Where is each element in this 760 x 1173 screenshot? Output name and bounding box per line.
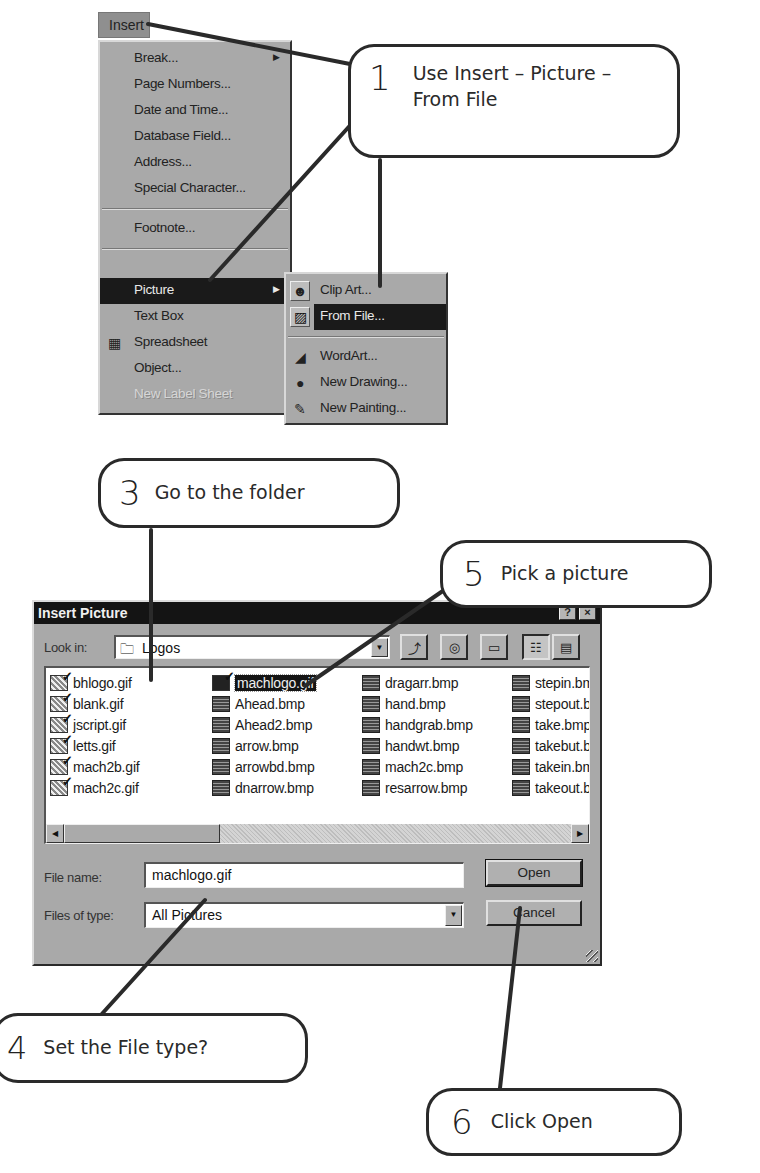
gif-file-icon (50, 759, 68, 775)
file-item[interactable]: Ahead2.bmp (212, 714, 316, 735)
list-view-button[interactable]: ☷ (522, 634, 550, 660)
gif-file-icon (50, 717, 68, 733)
file-item[interactable]: Ahead.bmp (212, 693, 316, 714)
bmp-file-icon (212, 738, 230, 754)
menu-item-date-time[interactable]: Date and Time... (100, 98, 290, 124)
chevron-down-icon[interactable]: ▼ (371, 638, 388, 657)
file-item[interactable]: takeout.bmp (512, 777, 590, 798)
dialog-title: Insert Picture (38, 605, 127, 621)
menu-item-object[interactable]: Object... (100, 356, 290, 382)
file-item[interactable]: dnarrow.bmp (212, 777, 316, 798)
file-item[interactable]: takein.bmp (512, 756, 590, 777)
gif-file-icon (50, 675, 68, 691)
menu-item-from-file[interactable]: From File... (314, 304, 446, 330)
menu-item-new-painting[interactable]: ✎New Painting... (286, 396, 446, 422)
bmp-file-icon (212, 759, 230, 775)
menu-item-picture[interactable]: Picture▶ (100, 278, 290, 304)
look-in-label: Look in: (44, 640, 87, 655)
file-item[interactable]: resarrow.bmp (362, 777, 473, 798)
file-name: arrowbd.bmp (235, 759, 315, 775)
file-item[interactable]: mach2c.bmp (362, 756, 473, 777)
file-item[interactable]: take.bmp (512, 714, 590, 735)
file-item[interactable]: hand.bmp (362, 693, 473, 714)
submenu-arrow-icon: ▶ (273, 52, 280, 62)
up-one-level-button[interactable]: ⤴ (400, 634, 428, 660)
file-item-selected[interactable]: machlogo.gif (212, 672, 316, 693)
open-button[interactable]: Open (486, 860, 582, 886)
file-column: bhlogo.gif blank.gif jscript.gif letts.g… (50, 672, 139, 798)
file-name: mach2c.gif (73, 780, 139, 796)
menu-item-break[interactable]: Break...▶ (100, 46, 290, 72)
menu-insert[interactable]: Insert (98, 12, 150, 38)
menu-item-text-box[interactable]: Text Box (100, 304, 290, 330)
file-name: bhlogo.gif (73, 675, 132, 691)
menu-item-spreadsheet[interactable]: ▦Spreadsheet (100, 330, 290, 356)
file-item[interactable]: handgrab.bmp (362, 714, 473, 735)
file-list[interactable]: bhlogo.gif blank.gif jscript.gif letts.g… (44, 666, 590, 844)
file-name: take.bmp (535, 717, 590, 733)
callout-text: Use Insert – Picture – From File (413, 61, 643, 112)
bmp-file-icon (512, 675, 530, 691)
up-one-level-icon: ⤴ (408, 638, 421, 657)
submenu-arrow-icon: ▶ (273, 284, 280, 294)
menu-item-wordart[interactable]: ◢WordArt... (286, 344, 446, 370)
menu-item-footnote[interactable]: Footnote... (100, 216, 290, 242)
file-column: machlogo.gif Ahead.bmp Ahead2.bmp arrow.… (212, 672, 316, 798)
bmp-file-icon (512, 759, 530, 775)
file-item[interactable]: arrow.bmp (212, 735, 316, 756)
menu-item-new-drawing[interactable]: ●New Drawing... (286, 370, 446, 396)
search-web-button[interactable]: ◎ (440, 634, 468, 660)
callout-number: 6 (451, 1102, 473, 1142)
file-name: dragarr.bmp (385, 675, 458, 691)
menu-item-address[interactable]: Address... (100, 150, 290, 176)
bmp-file-icon (512, 696, 530, 712)
file-name: handgrab.bmp (385, 717, 473, 733)
horizontal-scrollbar[interactable]: ◀ ▶ (46, 824, 589, 843)
menu-item-new-label-sheet: New Label Sheet (100, 382, 290, 408)
menu-item-database-field[interactable]: Database Field... (100, 124, 290, 150)
list-view-icon: ☷ (530, 640, 542, 655)
chevron-down-icon[interactable]: ▼ (445, 905, 462, 926)
file-item[interactable]: dragarr.bmp (362, 672, 473, 693)
menu-item-label: New Drawing... (320, 374, 407, 389)
file-item[interactable]: mach2c.gif (50, 777, 139, 798)
menu-item-label: New Label Sheet (134, 386, 232, 401)
bmp-file-icon (362, 780, 380, 796)
details-view-icon: ▤ (560, 640, 572, 655)
details-view-button[interactable]: ▤ (552, 634, 580, 660)
folder-icon: 🗀 (120, 639, 134, 663)
menu-item-special-character[interactable]: Special Character... (100, 176, 290, 202)
menu-item-page-numbers[interactable]: Page Numbers... (100, 72, 290, 98)
menu-item-label: Date and Time... (134, 102, 228, 117)
file-item[interactable]: stepin.bmp (512, 672, 590, 693)
scroll-left-icon[interactable]: ◀ (46, 824, 64, 843)
picture-submenu: ☻Clip Art... From File... ▨ ◢WordArt... … (284, 272, 448, 425)
file-name: mach2b.gif (73, 759, 139, 775)
file-item[interactable]: arrowbd.bmp (212, 756, 316, 777)
internet-icon: ◎ (449, 640, 460, 655)
file-name: machlogo.gif (235, 675, 316, 691)
clip-art-icon: ☻ (290, 281, 310, 301)
cancel-button[interactable]: Cancel (486, 900, 582, 926)
scrollbar-thumb[interactable] (64, 824, 220, 843)
file-name: Ahead2.bmp (235, 717, 312, 733)
resize-grip-icon[interactable] (586, 950, 598, 962)
new-folder-button[interactable]: ▭ (480, 634, 508, 660)
file-item[interactable]: takebut.bmp (512, 735, 590, 756)
gif-file-icon (212, 675, 230, 691)
file-name: arrow.bmp (235, 738, 299, 754)
menu-item-label: New Painting... (320, 400, 406, 415)
bmp-file-icon (512, 738, 530, 754)
bmp-file-icon (212, 717, 230, 733)
look-in-dropdown[interactable]: 🗀 Logos ▼ (114, 635, 390, 659)
bmp-file-icon (362, 759, 380, 775)
file-item[interactable]: handwt.bmp (362, 735, 473, 756)
menu-item-clip-art[interactable]: ☻Clip Art... (286, 278, 446, 304)
scroll-right-icon[interactable]: ▶ (571, 824, 589, 843)
file-name: dnarrow.bmp (235, 780, 314, 796)
file-type-dropdown[interactable]: All Pictures ▼ (144, 902, 464, 928)
file-item[interactable]: stepout.bmp (512, 693, 590, 714)
file-name-input[interactable]: machlogo.gif (144, 862, 464, 888)
callout-text: Click Open (491, 1109, 593, 1135)
new-drawing-icon: ● (290, 373, 310, 393)
